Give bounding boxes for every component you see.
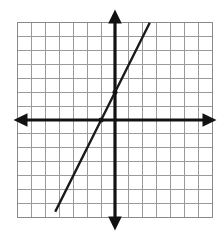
x-axis-right-arrow-icon	[203, 113, 217, 127]
y-axis-down-arrow-icon	[108, 217, 122, 231]
y-intercept-point	[113, 90, 118, 95]
coordinate-plane-svg	[0, 0, 221, 233]
plotted-line	[55, 23, 150, 212]
coordinate-graph-figure	[0, 0, 221, 233]
y-axis-up-arrow-icon	[108, 10, 122, 24]
x-intercept-point	[99, 118, 104, 123]
x-axis-left-arrow-icon	[14, 113, 28, 127]
